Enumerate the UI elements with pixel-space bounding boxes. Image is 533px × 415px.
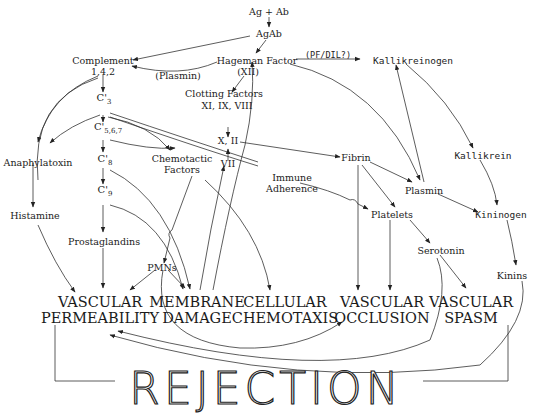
rejection-pathway-diagram: Ag + Ab AgAb Complement 1,4,2 Hageman Fa… [0,0,533,415]
outcome-vascular-permeability: VASCULARPERMEABILITY [41,294,159,326]
node-pmns: PMNs [147,262,176,273]
outcome-membrane-damage: MEMBRANEDAMAGE [149,294,245,326]
node-immune-adherence: ImmuneAdherence [266,172,318,194]
node-prostaglandins: Prostaglandins [68,236,140,247]
node-serotonin: Serotonin [417,245,464,256]
node-plasmin: Plasmin [405,185,443,196]
result-rejection: REJECTION [129,366,402,412]
label-plasmin-path: (Plasmin) [155,70,201,81]
node-kininogen: Kininogen [475,209,526,220]
node-x-ii: X, II [218,135,238,146]
node-agab: AgAb [256,28,282,39]
node-kallikrein: Kallikrein [454,150,511,161]
node-platelets: Platelets [371,209,413,220]
node-hageman-sub: (XII) [237,66,259,77]
node-kallikreinogen: Kallikreinogen [373,55,453,66]
label-pf-dil: (PF/DIL?) [305,50,351,61]
node-c567: C'5,6,7 [94,121,122,137]
node-anaphylatoxin: Anaphylatoxin [4,157,73,168]
node-clotting-sub: XI, IX, VIII [201,100,252,111]
node-histamine: Histamine [10,210,59,221]
outcome-cellular-chemotaxis: CELLULARCHEMOTAXIS [232,294,338,326]
outcome-vascular-occlusion: VASCULAROCCLUSION [334,294,429,326]
node-c9: C'9 [98,184,113,200]
node-ag-ab: Ag + Ab [249,6,289,17]
node-vii: VII [221,158,235,169]
node-c8: C'8 [98,153,113,169]
node-chemotactic-factors: ChemotacticFactors [152,153,213,175]
node-fibrin: Fibrin [341,152,370,163]
outcome-vascular-spasm: VASCULARSPASM [429,294,513,326]
node-kinins: Kinins [497,270,527,281]
node-hageman-factor: Hageman Factor [217,55,297,66]
node-complement: Complement [72,55,133,66]
node-complement-sub: 1,4,2 [91,66,115,77]
node-clotting-factors: Clotting Factors [185,88,263,99]
node-c3: C'3 [97,92,112,108]
